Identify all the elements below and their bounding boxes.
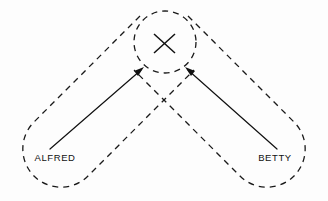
diagram-canvas: ALFRED BETTY bbox=[0, 0, 328, 201]
alfred-pointer-arrow bbox=[50, 67, 144, 149]
betty-label: BETTY bbox=[258, 152, 292, 163]
target-circle bbox=[134, 11, 196, 73]
x-mark-icon bbox=[154, 34, 175, 53]
betty-pointer-arrow bbox=[185, 67, 277, 149]
diagram-svg: ALFRED BETTY bbox=[0, 0, 328, 201]
alfred-label: ALFRED bbox=[34, 152, 75, 163]
